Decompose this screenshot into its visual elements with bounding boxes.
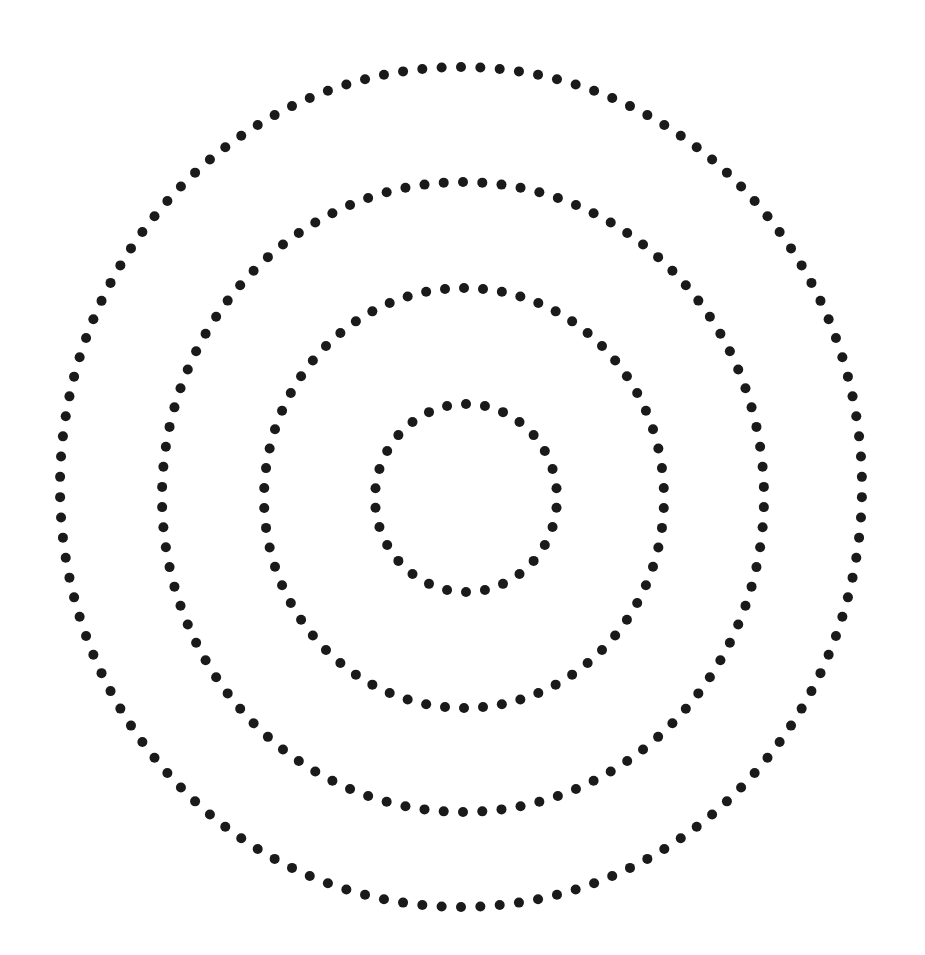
ring-dot — [597, 645, 607, 655]
ring-dot — [815, 296, 825, 306]
ring-dot — [681, 704, 691, 714]
ring-dot — [540, 446, 550, 456]
ring-dot — [653, 543, 663, 553]
ring-dot — [456, 62, 466, 72]
ring-dot — [382, 797, 392, 807]
ring-dot — [296, 615, 306, 625]
ring-dot — [648, 562, 658, 572]
ring-dot — [183, 364, 193, 374]
ring-dot — [583, 658, 593, 668]
concentric-rings-diagram — [0, 0, 925, 955]
ring-dot — [758, 522, 768, 532]
ring-dot — [137, 227, 147, 237]
ring-dot — [150, 211, 160, 221]
ring-dot — [277, 580, 287, 590]
ring-dot — [607, 93, 617, 103]
ring-dot — [848, 573, 858, 583]
ring-dot — [622, 228, 632, 238]
ring-dot — [606, 218, 616, 228]
ring-dot — [638, 240, 648, 250]
ring-dot — [632, 598, 642, 608]
ring-dot — [750, 196, 760, 206]
ring-dot — [775, 227, 785, 237]
ring-dot — [88, 314, 98, 324]
ring-dot — [351, 316, 361, 326]
ring-dot — [69, 592, 79, 602]
ring-dot — [360, 890, 370, 900]
ring-dot — [236, 833, 246, 843]
ring-dot — [294, 756, 304, 766]
ring-dot — [642, 110, 652, 120]
ring-dot — [115, 704, 125, 714]
ring-dot — [589, 776, 599, 786]
ring-dot — [659, 844, 669, 854]
ring-dot — [341, 884, 351, 894]
ring-dot — [857, 492, 867, 502]
ring-dot — [261, 523, 271, 533]
ring-dot — [106, 278, 116, 288]
ring-dot — [420, 804, 430, 814]
ring-dot — [439, 806, 449, 816]
ring-dot — [533, 688, 543, 698]
ring-dot — [321, 341, 331, 351]
ring-dot — [75, 612, 85, 622]
ring-dot — [571, 884, 581, 894]
ring-dot — [56, 512, 66, 522]
ring-dot — [286, 598, 296, 608]
ring-dot — [638, 744, 648, 754]
ring-dot — [115, 260, 125, 270]
ring-dot — [843, 592, 853, 602]
ring-dot — [625, 863, 635, 873]
ring-dot — [762, 753, 772, 763]
ring-dot — [323, 878, 333, 888]
ring-dot — [693, 296, 703, 306]
ring-second — [259, 283, 669, 713]
ring-dot — [176, 383, 186, 393]
ring-dot — [162, 196, 172, 206]
ring-dot — [498, 579, 508, 589]
ring-dot — [249, 718, 259, 728]
ring-dot — [106, 686, 116, 696]
ring-dot — [534, 797, 544, 807]
ring-dot — [75, 352, 85, 362]
ring-dot — [345, 784, 355, 794]
ring-dot — [265, 543, 275, 553]
ring-dot — [379, 70, 389, 80]
ring-dot — [831, 333, 841, 343]
ring-dot — [552, 503, 562, 513]
ring-dot — [856, 452, 866, 462]
ring-dot — [477, 178, 487, 188]
ring-dot — [659, 120, 669, 130]
ring-dot — [515, 292, 525, 302]
ring-dot — [848, 391, 858, 401]
ring-dot — [786, 721, 796, 731]
ring-dot — [477, 806, 487, 816]
ring-dot — [190, 796, 200, 806]
ring-dot — [201, 655, 211, 665]
ring-dot — [308, 631, 318, 641]
ring-dot — [659, 483, 669, 493]
ring-dot — [81, 333, 91, 343]
ring-dot — [58, 533, 68, 543]
ring-dot — [191, 346, 201, 356]
ring-dot — [259, 503, 269, 513]
ring-dot — [440, 702, 450, 712]
ring-dot — [363, 193, 373, 203]
ring-dot — [165, 422, 175, 432]
ring-dot — [270, 424, 280, 434]
ring-dot — [632, 388, 642, 398]
ring-dot — [854, 533, 864, 543]
ring-dot — [567, 316, 577, 326]
ring-dot — [81, 631, 91, 641]
ring-dot — [693, 688, 703, 698]
ring-dot — [762, 211, 772, 221]
ring-dot — [815, 668, 825, 678]
ring-dot — [515, 694, 525, 704]
ring-dot — [786, 243, 796, 253]
ring-dot — [421, 287, 431, 297]
ring-dot — [437, 62, 447, 72]
ring-dot — [725, 638, 735, 648]
ring-dot — [393, 556, 403, 566]
ring-dot — [552, 74, 562, 84]
ring-dot — [385, 298, 395, 308]
